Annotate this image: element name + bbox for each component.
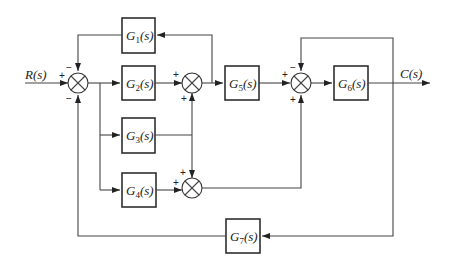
block-diagram: R(s) + − − G1(s) G2(s) G3(s) G4(s) [0,0,450,267]
block-g6: G6(s) [334,66,368,100]
svg-text:G3(s): G3(s) [126,128,154,145]
svg-text:G7(s): G7(s) [230,229,258,246]
block-g2: G2(s) [122,66,155,100]
svg-text:G5(s): G5(s) [229,76,257,93]
s4-sign-top: − [290,62,296,73]
s2-sign-bottom: + [181,93,187,104]
svg-text:G2(s): G2(s) [126,76,154,93]
summing-junction-s2 [182,73,202,93]
g1-to-s1-line [78,35,122,71]
svg-text:G6(s): G6(s) [338,76,366,93]
block-g5: G5(s) [225,66,259,100]
s1-sign-bottom: − [66,93,72,104]
summing-junction-s3 [182,178,202,198]
s3-sign-top: + [180,167,186,178]
block-g4: G4(s) [122,173,156,207]
s1-sign-top: − [66,62,72,73]
s3-sign-left: + [173,177,179,188]
s2-sign-left: + [173,69,179,80]
s1-sign-left: + [59,70,65,81]
block-g1: G1(s) [122,18,155,53]
output-label: C(s) [400,66,422,81]
block-g7: G7(s) [226,219,260,253]
summing-junction-s1 [68,73,88,93]
s3-to-s4-line [202,95,301,188]
svg-text:G1(s): G1(s) [126,28,154,45]
block-g3: G3(s) [122,118,155,153]
input-label: R(s) [24,67,47,82]
svg-text:G4(s): G4(s) [126,183,154,200]
output-to-g7-feedback-line [262,83,393,236]
s4-sign-bottom: + [290,94,296,105]
summing-junction-s4 [291,73,311,93]
s4-sign-left: + [282,69,288,80]
